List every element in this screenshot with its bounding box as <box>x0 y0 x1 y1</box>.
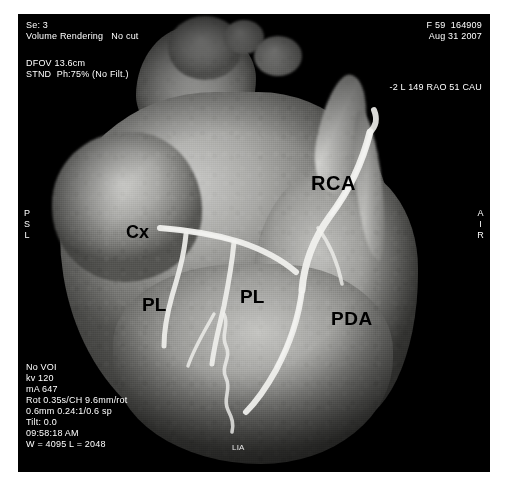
pl-branch-mid <box>212 242 234 364</box>
annotation-rca: RCA <box>311 172 356 195</box>
series-number: Se: 3 <box>26 20 48 30</box>
dfov-value: DFOV 13.6cm <box>26 58 85 68</box>
pl-branch-left <box>164 234 186 346</box>
gantry-tilt: Tilt: 0.0 <box>26 417 57 427</box>
series-info-overlay: Se: 3 Volume Rendering No cut <box>26 20 139 42</box>
acquisition-time: 09:58:18 AM <box>26 428 79 438</box>
annotation-cx: Cx <box>126 222 149 243</box>
field-of-view-overlay: DFOV 13.6cm STND Ph:75% (No Filt.) <box>26 58 129 80</box>
technique-overlay: No VOI kv 120 mA 647 Rot 0.35s/CH 9.6mm/… <box>26 362 127 450</box>
slice-spacing: 0.6mm 0.24:1/0.6 sp <box>26 406 112 416</box>
study-date: Aug 31 2007 <box>429 31 482 41</box>
voi-status: No VOI <box>26 362 57 372</box>
patient-id: F 59 164909 <box>427 20 482 30</box>
distal-tortuous-branch <box>224 314 233 432</box>
kv-value: kv 120 <box>26 373 54 383</box>
annotation-pda: PDA <box>331 308 373 330</box>
orientation-marker-footer: LIA <box>232 442 245 453</box>
marginal-branch <box>188 314 214 366</box>
recon-type: Volume Rendering No cut <box>26 31 139 41</box>
rotation-pitch: Rot 0.35s/CH 9.6mm/rot <box>26 395 127 405</box>
pda-vessel <box>246 290 302 412</box>
window-level: W = 4095 L = 2048 <box>26 439 106 449</box>
kernel-phase: STND Ph:75% (No Filt.) <box>26 69 129 79</box>
rca-proximal-segment <box>370 110 376 132</box>
orientation-marker-left: P S L <box>24 208 30 241</box>
screenshot-canvas: Se: 3 Volume Rendering No cut DFOV 13.6c… <box>0 0 508 492</box>
orientation-marker-right: A I R <box>477 208 484 241</box>
annotation-pl-left: PL <box>142 294 166 316</box>
view-angle-overlay: -2 L 149 RAO 51 CAU <box>389 82 482 93</box>
ct-volume-rendering-viewport[interactable]: Se: 3 Volume Rendering No cut DFOV 13.6c… <box>18 14 490 472</box>
ma-value: mA 647 <box>26 384 58 394</box>
acute-marginal-branch <box>318 228 342 284</box>
annotation-pl-right: PL <box>240 286 264 308</box>
patient-info-overlay: F 59 164909 Aug 31 2007 <box>427 20 482 42</box>
